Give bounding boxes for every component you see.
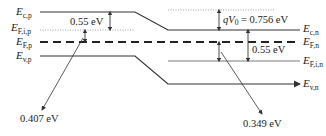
label-ef-n: EF,n [302,35,319,50]
label-ec-p: Ec,p [15,5,32,20]
label-ev-p: Ev,p [15,49,32,64]
left-callout-line [42,38,83,110]
label-ef-p: EF,p [15,35,32,50]
label-efi-n: EF,i,n [302,54,323,69]
band-diagram: Ec,p EF,i,p EF,p Ev,p 0.55 eV 0.407 eV q… [0,0,326,136]
label-efi-p: EF,i,p [10,21,31,36]
left-gap-label: 0.55 eV [70,16,104,27]
built-in-potential-label: qV0 = 0.756 eV [223,14,289,27]
left-callout-label: 0.407 eV [20,113,59,124]
right-gap-label: 0.55 eV [252,44,286,55]
label-ev-n: Ev,n [302,77,319,92]
right-callout-label: 0.349 eV [243,118,282,129]
valence-band-line [40,56,300,84]
